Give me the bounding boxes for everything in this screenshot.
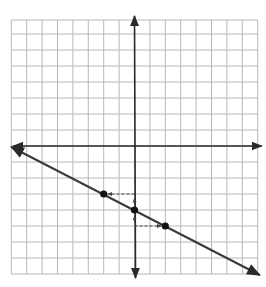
data-point	[131, 206, 138, 213]
data-point	[100, 190, 107, 197]
data-point	[162, 222, 169, 229]
axes	[13, 16, 261, 278]
y-axis	[135, 16, 136, 278]
coordinate-plane	[0, 0, 266, 287]
